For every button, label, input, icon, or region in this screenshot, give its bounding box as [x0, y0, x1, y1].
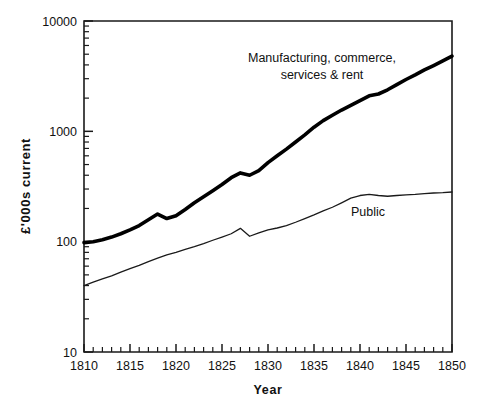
y-axis-title: £'000s current — [18, 138, 33, 234]
chart-svg: 10100100010000 1810181518201825183018351… — [0, 0, 486, 403]
y-tick-label: 10000 — [42, 15, 77, 29]
chart-figure: 10100100010000 1810181518201825183018351… — [0, 0, 486, 403]
public-annotation: Public — [351, 205, 385, 219]
y-tick-label: 1000 — [49, 125, 77, 139]
x-tick-label: 1820 — [162, 359, 190, 373]
x-tick-label: 1830 — [254, 359, 282, 373]
x-tick-label: 1815 — [116, 359, 144, 373]
x-tick-label: 1850 — [438, 359, 466, 373]
x-tick-label: 1840 — [346, 359, 374, 373]
chart-background — [0, 0, 486, 403]
x-axis-title: Year — [253, 383, 282, 397]
y-tick-label: 10 — [63, 346, 77, 360]
y-tick-label: 100 — [56, 235, 77, 249]
x-tick-label: 1810 — [70, 359, 98, 373]
x-axis-tick-labels: 181018151820182518301835184018451850 — [70, 359, 466, 373]
x-tick-label: 1845 — [392, 359, 420, 373]
x-tick-label: 1825 — [208, 359, 236, 373]
x-tick-label: 1835 — [300, 359, 328, 373]
